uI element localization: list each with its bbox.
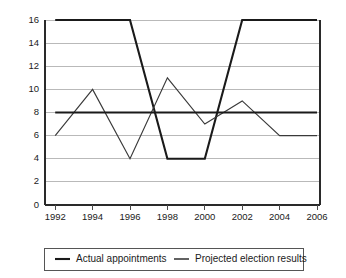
y-tick-label-4: 4	[34, 152, 39, 163]
legend-label-actual-appointments: Actual appointments	[76, 253, 167, 264]
y-tick-label-12: 12	[28, 60, 39, 71]
x-tickmarks	[55, 205, 317, 210]
chart-legend: Actual appointments Projected election r…	[44, 248, 307, 270]
gridlines	[45, 20, 320, 182]
y-tick-label-0: 0	[34, 199, 39, 210]
x-tick-label-1994: 1994	[82, 211, 103, 222]
y-tick-label-16: 16	[28, 14, 39, 25]
x-tick-label-1996: 1996	[119, 211, 140, 222]
x-tick-label-1998: 1998	[157, 211, 178, 222]
y-tick-label-2: 2	[34, 175, 39, 186]
x-tick-label-2000: 2000	[194, 211, 215, 222]
x-tick-label-2004: 2004	[269, 211, 290, 222]
y-tick-label-10: 10	[28, 83, 39, 94]
x-axis-tick-labels: 1992 1994 1996 1998 2000 2002 2004 2006	[45, 211, 328, 222]
y-axis-tick-labels: 16 14 12 10 8 6 4 2 0	[28, 14, 39, 210]
series-line-projected	[55, 78, 317, 159]
chart-container: 16 14 12 10 8 6 4 2 0 1992 1994 1996 199…	[0, 0, 346, 278]
x-tick-label-2002: 2002	[232, 211, 253, 222]
y-tick-label-14: 14	[28, 37, 39, 48]
line-chart: 16 14 12 10 8 6 4 2 0 1992 1994 1996 199…	[0, 0, 346, 278]
legend-label-projected-election-results: Projected election results	[195, 253, 307, 264]
x-tick-label-2006: 2006	[306, 211, 327, 222]
y-tick-label-6: 6	[34, 129, 39, 140]
y-tick-label-8: 8	[34, 106, 39, 117]
x-tick-label-1992: 1992	[45, 211, 66, 222]
